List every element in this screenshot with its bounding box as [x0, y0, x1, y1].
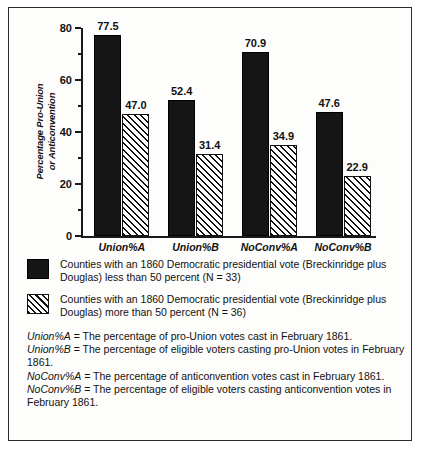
footnote: NoConv%A = The percentage of anticonvent… [27, 370, 405, 383]
bar-value-label: 52.4 [171, 85, 192, 97]
y-tick-minor [78, 209, 82, 210]
footnote-definition: = The percentage of eligible voters cast… [27, 343, 404, 368]
footnote-definition: = The percentage of pro-Union votes cast… [71, 330, 352, 342]
x-tick-label: Union%B [172, 241, 219, 253]
x-axis-line [81, 236, 376, 238]
bar-noconv-b-series1 [316, 112, 343, 236]
bar-noconv-b-series2 [344, 176, 371, 236]
bar-union-a-series1 [94, 35, 121, 237]
legend-swatch-solid-black-square [27, 259, 49, 279]
legend-item: Counties with an 1860 Democratic preside… [27, 293, 399, 319]
footnote: Union%B = The percentage of eligible vot… [27, 343, 405, 369]
bar-chart: Percentage Pro-Union or Anticonvention 0… [9, 16, 413, 254]
legend-item: Counties with an 1860 Democratic preside… [27, 258, 399, 284]
footnote-term: Union%B [27, 343, 71, 355]
figure-frame: Percentage Pro-Union or Anticonvention 0… [8, 7, 412, 441]
bar-value-label: 47.0 [125, 99, 146, 111]
y-tick-major [75, 235, 81, 237]
legend-swatch-hatched-square [27, 294, 49, 314]
chart-legend: Counties with an 1860 Democratic preside… [27, 258, 399, 328]
bar-value-label: 70.9 [245, 37, 266, 49]
footnote-term: Union%A [27, 330, 71, 342]
bar-value-label: 47.6 [318, 97, 339, 109]
bar-union-a-series2 [122, 114, 149, 236]
bar-value-label: 77.5 [97, 20, 118, 32]
footnote-term: NoConv%B [27, 383, 81, 395]
bar-value-label: 22.9 [346, 161, 367, 173]
footnote: Union%A = The percentage of pro-Union vo… [27, 330, 405, 343]
y-axis-title: Percentage Pro-Union or Anticonvention [34, 52, 57, 212]
y-tick-minor [78, 53, 82, 54]
y-axis-title-line2: or Anticonvention [45, 93, 56, 171]
y-tick-major [75, 131, 81, 133]
y-tick-major [75, 27, 81, 29]
y-tick-label: 20 [60, 178, 72, 190]
bar-union-b-series2 [196, 154, 223, 236]
y-tick-label: 60 [60, 74, 72, 86]
footnote-definition: = The percentage of anticonvention votes… [81, 370, 384, 382]
footnotes: Union%A = The percentage of pro-Union vo… [27, 330, 405, 409]
y-axis-line [81, 28, 83, 236]
x-tick-label: Union%A [99, 241, 146, 253]
bar-value-label: 34.9 [273, 130, 294, 142]
footnote-definition: = The percentage of eligible voters cast… [27, 383, 391, 408]
y-tick-label: 0 [66, 230, 72, 242]
plot-area: 020406080 77.547.052.431.470.934.947.622… [81, 28, 376, 236]
legend-label: Counties with an 1860 Democratic preside… [60, 258, 399, 284]
y-tick-minor [78, 157, 82, 158]
y-tick-major [75, 183, 81, 185]
y-tick-label: 80 [60, 22, 72, 34]
y-tick-minor [78, 105, 82, 106]
y-tick-major [75, 79, 81, 81]
y-tick-label: 40 [60, 126, 72, 138]
bar-noconv-a-series2 [270, 145, 297, 236]
y-axis-title-line1: Percentage Pro-Union [34, 84, 45, 180]
x-tick-label: NoConv%B [315, 241, 372, 253]
bar-value-label: 31.4 [199, 139, 220, 151]
x-tick-label: NoConv%A [241, 241, 298, 253]
bar-union-b-series1 [168, 100, 195, 236]
footnote: NoConv%B = The percentage of eligible vo… [27, 383, 405, 409]
bar-noconv-a-series1 [242, 52, 269, 236]
legend-label: Counties with an 1860 Democratic preside… [60, 293, 399, 319]
footnote-term: NoConv%A [27, 370, 81, 382]
